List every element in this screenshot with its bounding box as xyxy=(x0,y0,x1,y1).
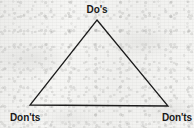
bottom-left-label-donts: Don'ts xyxy=(10,112,40,123)
triangle-shape xyxy=(0,0,194,128)
bottom-right-label-donts: Don'ts xyxy=(162,112,192,123)
paper-texture-background xyxy=(0,0,194,128)
figure-canvas: Do's Don'ts Don'ts xyxy=(0,0,194,128)
triangle-outline xyxy=(30,20,168,106)
paper-grain-overlay xyxy=(0,0,194,128)
apex-label-dos: Do's xyxy=(0,4,194,15)
